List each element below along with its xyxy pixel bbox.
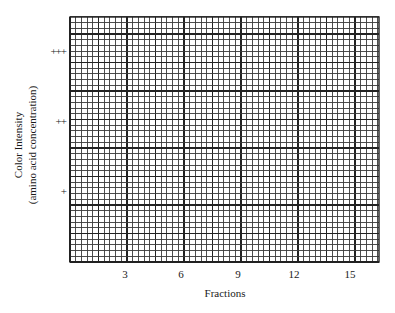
x-tick-label-9: 9 (235, 268, 241, 280)
y-tick-label-plus1: + (61, 186, 66, 197)
x-tick-label-12: 12 (289, 268, 300, 280)
x-tick-label-6: 6 (178, 268, 184, 280)
x-axis-title: Fractions (205, 287, 246, 299)
y-axis-title-line2: (amino acid concentration) (25, 86, 39, 205)
y-axis-title-line1: Color Intensity (11, 86, 25, 205)
y-tick-label-plus2: ++ (56, 116, 66, 127)
y-axis-title: Color Intensity (amino acid concentratio… (11, 86, 39, 205)
x-tick-label-3: 3 (122, 268, 128, 280)
x-tick-label-15: 15 (345, 268, 356, 280)
chart-container: Color Intensity (amino acid concentratio… (0, 0, 395, 313)
y-tick-label-plus3: +++ (50, 46, 66, 57)
